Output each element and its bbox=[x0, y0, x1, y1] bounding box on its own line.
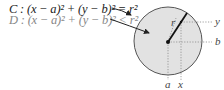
label-y: y bbox=[214, 15, 220, 27]
center-point bbox=[166, 40, 170, 44]
label-x: x bbox=[177, 78, 183, 90]
label-b: b bbox=[215, 35, 221, 47]
point-xy bbox=[180, 21, 182, 23]
label-a: a bbox=[165, 78, 171, 90]
label-r: r bbox=[171, 16, 176, 28]
circle-diagram: r y b a x bbox=[0, 0, 224, 90]
arrow-c bbox=[112, 8, 131, 15]
